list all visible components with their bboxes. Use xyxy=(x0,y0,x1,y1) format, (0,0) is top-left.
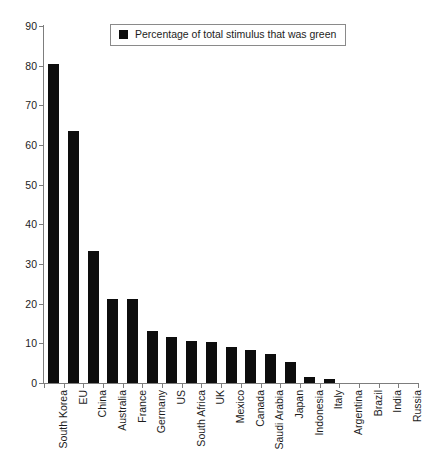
chart-legend: Percentage of total stimulus that was gr… xyxy=(110,24,346,46)
x-axis-label: Germany xyxy=(156,390,167,433)
x-axis-label: Italy xyxy=(333,390,344,409)
bar[interactable] xyxy=(107,299,118,383)
x-axis-label: South Korea xyxy=(58,390,69,448)
x-tick-mark xyxy=(103,383,104,388)
legend-label: Percentage of total stimulus that was gr… xyxy=(135,29,336,40)
x-tick-mark xyxy=(379,383,380,388)
x-axis-label: EU xyxy=(78,390,89,405)
bar[interactable] xyxy=(48,64,59,383)
x-tick-mark xyxy=(339,383,340,388)
bar-chart: 0102030405060708090 South KoreaEUChinaAu… xyxy=(0,0,440,470)
x-tick-mark xyxy=(123,383,124,388)
x-axis-label: India xyxy=(392,390,403,413)
x-tick-mark xyxy=(241,383,242,388)
y-tick-label: 0 xyxy=(31,378,37,389)
x-axis-label: Australia xyxy=(117,390,128,431)
bar[interactable] xyxy=(88,251,99,383)
bars-layer xyxy=(44,26,418,383)
y-tick-label: 70 xyxy=(25,100,37,111)
bar[interactable] xyxy=(166,337,177,383)
legend-swatch-icon xyxy=(119,30,128,39)
x-tick-mark xyxy=(83,383,84,388)
y-tick-label: 40 xyxy=(25,219,37,230)
y-tick-label: 10 xyxy=(25,338,37,349)
x-axis-label: Saudi Arabia xyxy=(274,390,285,450)
x-tick-mark xyxy=(44,383,45,388)
x-tick-mark xyxy=(300,383,301,388)
y-tick-label: 80 xyxy=(25,60,37,71)
x-tick-mark xyxy=(398,383,399,388)
y-tick-label: 30 xyxy=(25,259,37,270)
y-tick-label: 90 xyxy=(25,21,37,32)
x-axis-label: France xyxy=(137,390,148,423)
bar[interactable] xyxy=(285,362,296,383)
x-axis-label: Indonesia xyxy=(314,390,325,436)
x-tick-mark xyxy=(142,383,143,388)
x-axis-label: China xyxy=(97,390,108,417)
x-axis-label: Argentina xyxy=(353,390,364,435)
bar[interactable] xyxy=(226,347,237,383)
bar[interactable] xyxy=(186,341,197,383)
x-tick-mark xyxy=(359,383,360,388)
bar[interactable] xyxy=(245,350,256,383)
y-tick-label: 60 xyxy=(25,140,37,151)
bar[interactable] xyxy=(265,354,276,383)
x-tick-mark xyxy=(320,383,321,388)
x-axis-label: US xyxy=(176,390,187,405)
x-tick-mark xyxy=(418,383,419,388)
bar[interactable] xyxy=(304,377,315,383)
x-axis-label: Canada xyxy=(255,390,266,427)
x-axis-label: Japan xyxy=(294,390,305,419)
x-tick-mark xyxy=(261,383,262,388)
bar[interactable] xyxy=(147,331,158,383)
bar[interactable] xyxy=(324,379,335,383)
bar[interactable] xyxy=(68,131,79,383)
x-tick-mark xyxy=(280,383,281,388)
bar[interactable] xyxy=(127,299,138,383)
x-axis-label: UK xyxy=(215,390,226,405)
bar[interactable] xyxy=(206,342,217,383)
x-axis-label: Mexico xyxy=(235,390,246,423)
x-axis-label: South Africa xyxy=(196,390,207,447)
x-axis-label: Brazil xyxy=(373,390,384,416)
x-tick-mark xyxy=(201,383,202,388)
y-tick-label: 20 xyxy=(25,298,37,309)
x-tick-mark xyxy=(221,383,222,388)
x-axis-line xyxy=(43,383,419,384)
x-tick-mark xyxy=(162,383,163,388)
x-tick-mark xyxy=(64,383,65,388)
y-tick-label: 50 xyxy=(25,179,37,190)
x-axis-label: Russia xyxy=(412,390,423,422)
x-tick-mark xyxy=(182,383,183,388)
